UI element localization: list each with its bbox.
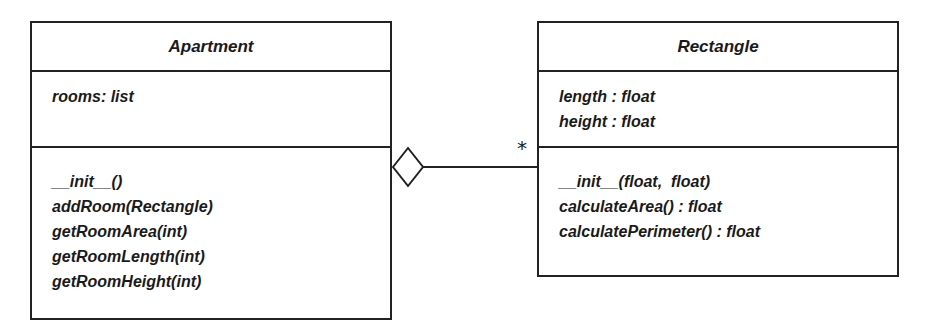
operation: getRoomHeight(int): [52, 269, 390, 294]
attributes-section: length : float height : float: [539, 70, 897, 148]
class-name: Apartment: [32, 23, 390, 72]
class-name: Rectangle: [539, 23, 897, 72]
class-apartment[interactable]: Apartment rooms: list __init__() addRoom…: [30, 21, 392, 320]
operation: getRoomArea(int): [52, 219, 390, 244]
operation: addRoom(Rectangle): [52, 194, 390, 219]
operation: __init__(float, float): [559, 169, 897, 194]
operations-section: __init__() addRoom(Rectangle) getRoomAre…: [32, 150, 390, 318]
operation: getRoomLength(int): [52, 244, 390, 269]
attribute: rooms: list: [52, 84, 390, 109]
operations-section: __init__(float, float) calculateArea() :…: [539, 150, 897, 275]
attribute: length : float: [559, 84, 897, 109]
multiplicity-label: *: [517, 136, 527, 160]
aggregation-diamond-icon: [393, 148, 423, 186]
class-rectangle[interactable]: Rectangle length : float height : float …: [537, 21, 899, 277]
operation: __init__(): [52, 169, 390, 194]
operation: calculateArea() : float: [559, 194, 897, 219]
operation: calculatePerimeter() : float: [559, 219, 897, 244]
attributes-section: rooms: list: [32, 70, 390, 148]
attribute: height : float: [559, 109, 897, 134]
